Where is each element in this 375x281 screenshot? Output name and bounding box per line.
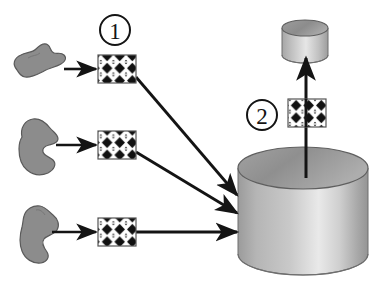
filter-box-bottom [98,218,136,246]
step-marker-two: 2 [247,100,277,130]
output-cylinder [282,20,328,63]
filter-box-middle [98,131,136,159]
filter-box-top [98,55,136,83]
step-marker-two-label: 2 [256,104,268,129]
diagram-illustration: 1 2 [0,0,375,281]
diagram-canvas: 1 2 [0,0,375,281]
filter-box-extract [288,99,326,127]
data-store-cylinder [238,147,368,275]
step-marker-one-label: 1 [109,19,121,44]
step-marker-one: 1 [100,15,130,45]
